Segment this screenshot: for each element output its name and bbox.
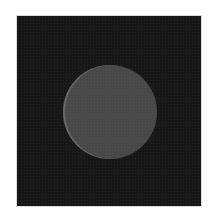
dark-field (16, 15, 202, 207)
gray-disc (63, 65, 157, 159)
disc-noise-texture (63, 65, 157, 159)
